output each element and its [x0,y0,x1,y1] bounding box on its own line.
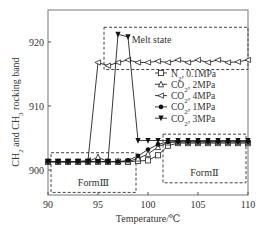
legend-label: CO2, 3MPa [171,114,216,128]
x-tick-label: 90 [43,199,53,210]
x-axis-label: Temperature/℃ [116,213,180,224]
x-tick-label: 110 [241,199,256,210]
marker-triangle-left [158,93,164,98]
marker-triangle-left [215,57,221,62]
svg-text:CH2 and CH3 rocking band: CH2 and CH3 rocking band [10,57,25,166]
marker-triangle-left [235,59,241,64]
marker-square [155,153,160,158]
chart-svg: Melt stateFormⅢFormⅡ 9095100105110900910… [0,0,264,235]
y-tick-label: 910 [29,101,44,112]
marker-triangle-left [225,60,231,65]
x-tick-label: 95 [93,199,103,210]
annotation-label: Melt state [132,34,172,45]
axes: 9095100105110900910920 [29,37,255,210]
y-axis-label: CH2 and CH3 rocking band [10,57,25,166]
marker-circle [146,147,151,152]
marker-circle [136,154,141,159]
marker-triangle-up [95,154,100,160]
chart: Melt stateFormⅢFormⅡ 9095100105110900910… [0,0,264,235]
marker-square [145,158,150,163]
y-tick-label: 920 [29,37,44,48]
x-tick-label: 105 [191,199,206,210]
marker-triangle-left [105,63,111,68]
marker-triangle-left [145,60,151,65]
annotation-label: FormⅡ [190,167,219,178]
marker-circle [159,105,164,110]
marker-triangle-left [165,60,171,65]
marker-triangle-left [135,60,141,65]
y-tick-label: 900 [29,165,44,176]
marker-triangle-down [125,34,130,40]
x-tick-label: 100 [141,199,156,210]
legend: N2, 0.1MPaCO2, 2MPaCO2, 4MPaCO2, 1MPaCO2… [155,69,217,128]
marker-square [158,70,163,75]
marker-triangle-left [195,57,201,62]
marker-circle [116,159,121,164]
marker-triangle-left [205,60,211,65]
series-line [48,60,248,162]
series-group [45,32,251,165]
marker-triangle-left [175,57,181,62]
marker-triangle-left [155,59,161,64]
marker-circle [126,158,131,163]
annotation-label: FormⅢ [78,177,110,188]
annotation-boxes: Melt stateFormⅢFormⅡ [51,27,248,192]
marker-triangle-left [185,60,191,65]
